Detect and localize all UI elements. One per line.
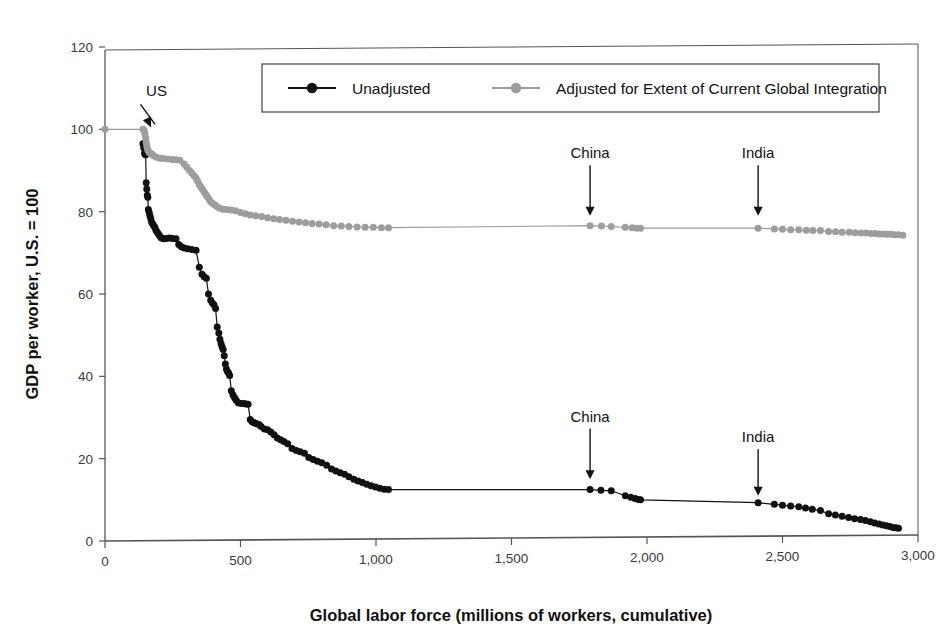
data-point [338, 223, 345, 230]
data-point [845, 514, 852, 521]
data-point [212, 305, 219, 312]
data-point [309, 220, 316, 227]
data-point [252, 212, 259, 219]
data-point [832, 512, 839, 519]
data-point [143, 186, 150, 193]
legend-marker-unadjusted [307, 83, 317, 93]
data-point [203, 275, 210, 282]
data-point [378, 224, 385, 231]
data-point [787, 503, 794, 510]
data-point [846, 229, 853, 236]
data-point [839, 513, 846, 520]
data-point [637, 225, 644, 232]
data-point [851, 515, 858, 522]
data-point [196, 264, 203, 271]
data-point [779, 226, 786, 233]
data-point [598, 223, 605, 230]
data-point [637, 496, 644, 503]
y-tick-label-40: 40 [78, 369, 93, 384]
data-point [825, 510, 832, 517]
data-point [608, 487, 615, 494]
data-point [385, 486, 392, 493]
data-point [144, 194, 151, 201]
data-point [809, 506, 816, 513]
x-tick-label-500: 500 [229, 553, 252, 568]
data-point [258, 213, 265, 220]
data-point [220, 346, 227, 353]
data-point [296, 218, 303, 225]
data-point [771, 225, 778, 232]
x-tick-label-2,500: 2,500 [766, 549, 800, 564]
data-point [779, 502, 786, 509]
data-point [839, 229, 846, 236]
x-axis-title: Global labor force (millions of workers,… [310, 606, 713, 624]
y-tick-label-20: 20 [78, 452, 93, 467]
data-point [345, 223, 352, 230]
data-point [803, 227, 810, 234]
x-tick-label-1,000: 1,000 [359, 552, 393, 567]
chart-legend: Unadjusted Adjusted for Extent of Curren… [262, 64, 887, 112]
data-point [330, 222, 337, 229]
annotation-label: India [742, 144, 775, 161]
data-point [587, 222, 594, 229]
data-point [825, 228, 832, 235]
data-point [214, 323, 221, 330]
x-tick-label-3,000: 3,000 [901, 548, 935, 563]
data-point [221, 352, 228, 359]
gdp-per-worker-chart: 020406080100120 05001,0001,5002,0002,500… [0, 0, 951, 633]
data-point [832, 228, 839, 235]
data-point [608, 223, 615, 230]
chart-container: 020406080100120 05001,0001,5002,0002,500… [0, 0, 951, 633]
data-point [755, 225, 762, 232]
y-tick-label-100: 100 [70, 122, 93, 137]
data-point [385, 224, 392, 231]
annotation-label: US [146, 82, 167, 99]
data-point [283, 217, 290, 224]
data-point [899, 232, 906, 239]
data-point [795, 226, 802, 233]
data-point [809, 227, 816, 234]
x-tick-label-1,500: 1,500 [495, 551, 529, 566]
data-point [817, 227, 824, 234]
data-point [276, 216, 283, 223]
legend-label-adjusted: Adjusted for Extent of Current Global In… [556, 80, 887, 97]
y-tick-label-60: 60 [78, 287, 93, 302]
data-point [193, 247, 200, 254]
legend-marker-adjusted [511, 83, 521, 93]
data-point [316, 221, 323, 228]
data-point [245, 401, 252, 408]
data-point [289, 218, 296, 225]
x-tick-label-2,000: 2,000 [630, 550, 664, 565]
data-point [205, 291, 212, 298]
annotation-label: China [570, 408, 610, 425]
data-point [587, 486, 594, 493]
data-point [755, 499, 762, 506]
data-point [215, 330, 222, 337]
data-point [817, 507, 824, 514]
data-point [302, 219, 309, 226]
data-point [622, 224, 629, 231]
data-point [102, 126, 109, 133]
data-point [323, 221, 330, 228]
data-point [143, 179, 150, 186]
y-tick-label-80: 80 [78, 205, 93, 220]
data-point [362, 224, 369, 231]
data-point [264, 214, 271, 221]
data-point [370, 224, 377, 231]
legend-label-unadjusted: Unadjusted [352, 80, 430, 97]
data-point [895, 525, 902, 532]
annotation-label: China [570, 144, 610, 161]
data-point [270, 215, 277, 222]
data-point [226, 372, 233, 379]
data-point [771, 501, 778, 508]
y-axis-title: GDP per worker, U.S. = 100 [23, 188, 41, 399]
y-tick-label-120: 120 [70, 40, 93, 55]
y-tick-label-0: 0 [85, 534, 93, 549]
x-tick-label-0: 0 [101, 554, 109, 569]
data-point [787, 226, 794, 233]
data-point [795, 503, 802, 510]
data-point [597, 487, 604, 494]
annotation-label: India [742, 428, 775, 445]
data-point [852, 229, 859, 236]
data-point [802, 505, 809, 512]
